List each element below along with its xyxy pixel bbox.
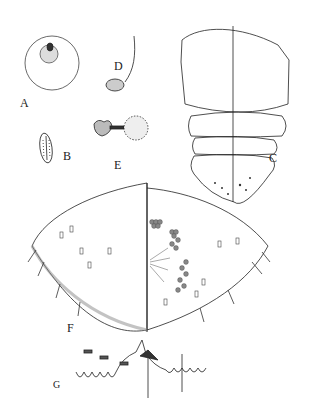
panel-label-g: G <box>53 380 60 390</box>
margin-detail-drawing <box>76 340 206 398</box>
pygidium-drawing <box>28 183 270 332</box>
panel-label-e: E <box>114 159 121 171</box>
panel-label-b: B <box>63 150 71 162</box>
panel-label-a: A <box>20 97 29 109</box>
gland-structure-drawing <box>94 116 148 140</box>
panel-label-c: C <box>269 152 277 164</box>
larva-drawing <box>181 26 289 203</box>
egg-round-drawing <box>25 36 79 90</box>
illustration <box>0 0 315 418</box>
figure-plate: A B C D E F G <box>0 0 315 418</box>
panel-label-f: F <box>67 322 74 334</box>
panel-label-d: D <box>114 60 123 72</box>
egg-elongate-drawing <box>38 132 54 163</box>
